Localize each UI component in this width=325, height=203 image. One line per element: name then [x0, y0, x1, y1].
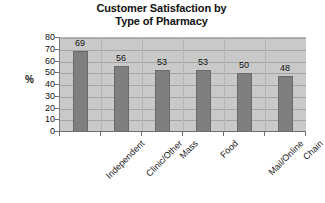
x-axis-category-label: Clinic/Other — [145, 139, 185, 179]
y-axis-tick-label: 10 — [33, 115, 55, 124]
bar-value-label: 53 — [148, 58, 176, 67]
y-axis-tick-label: 70 — [33, 45, 55, 54]
x-axis-tick-mark — [305, 132, 306, 136]
x-axis-tick-mark — [182, 132, 183, 136]
y-axis-tick-label: 50 — [33, 68, 55, 77]
y-axis-tick-label: 30 — [33, 92, 55, 101]
gridlines — [60, 38, 306, 132]
bar-value-label: 53 — [189, 58, 217, 67]
bar — [114, 66, 129, 132]
bar-value-label: 48 — [271, 64, 299, 73]
y-axis-tick-label: 80 — [33, 33, 55, 42]
bar — [73, 51, 88, 132]
y-axis-tick-mark — [55, 61, 59, 62]
y-axis-tick-label: 0 — [33, 127, 55, 136]
x-axis-tick-mark — [59, 132, 60, 136]
x-axis-tick-mark — [100, 132, 101, 136]
bar-value-label: 50 — [230, 61, 258, 70]
y-axis-tick-labels: 80706050403020100 — [33, 0, 55, 203]
bar — [237, 73, 252, 132]
bar — [278, 76, 293, 132]
y-axis-tick-mark — [55, 49, 59, 50]
y-axis-tick-mark — [55, 84, 59, 85]
x-axis-tick-mark — [223, 132, 224, 136]
bar-value-label: 69 — [66, 39, 94, 48]
category-divider — [265, 38, 266, 132]
y-axis-tick-label: 60 — [33, 57, 55, 66]
y-axis-tick-mark — [55, 108, 59, 109]
bar — [196, 70, 211, 132]
category-divider — [224, 38, 225, 132]
plot-area — [59, 37, 306, 132]
y-axis-tick-label: 20 — [33, 104, 55, 113]
x-axis-category-label: Mail/Online — [267, 139, 305, 177]
y-axis-tick-mark — [55, 37, 59, 38]
y-axis-tick-mark — [55, 96, 59, 97]
bar — [155, 70, 170, 132]
category-divider — [101, 38, 102, 132]
x-axis-tick-mark — [264, 132, 265, 136]
category-divider — [142, 38, 143, 132]
y-axis-tick-mark — [55, 72, 59, 73]
x-axis-tick-mark — [141, 132, 142, 136]
category-divider — [183, 38, 184, 132]
x-axis-category-label: Chain — [302, 139, 325, 162]
y-axis-tick-mark — [55, 119, 59, 120]
y-axis-tick-label: 40 — [33, 80, 55, 89]
x-axis-category-label: Food — [219, 139, 240, 160]
bar-value-label: 56 — [107, 54, 135, 63]
x-axis-category-label: Independent — [105, 139, 147, 181]
